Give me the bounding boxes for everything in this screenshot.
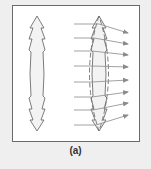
figure-caption: (a) bbox=[0, 145, 151, 156]
lens-diagram bbox=[0, 0, 151, 169]
right-prism-lens bbox=[91, 16, 107, 131]
left-prism-lens bbox=[29, 16, 45, 131]
